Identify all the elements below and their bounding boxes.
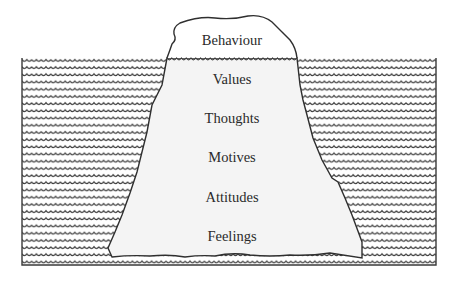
label-thoughts: Thoughts [205,110,260,126]
label-feelings: Feelings [207,228,256,244]
label-values: Values [213,71,252,87]
label-attitudes: Attitudes [205,189,259,205]
label-behaviour: Behaviour [202,32,263,48]
iceberg-diagram: Behaviour Values Thoughts Motives Attitu… [0,0,456,283]
label-motives: Motives [208,149,256,165]
